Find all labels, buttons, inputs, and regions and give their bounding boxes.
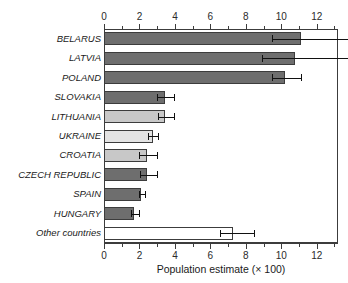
category-label: LITHUANIA — [1, 111, 101, 122]
axis-tick-label: 10 — [269, 250, 293, 261]
error-bar-line — [262, 58, 348, 59]
error-bar-cap-low — [220, 230, 221, 237]
bar — [104, 188, 141, 201]
x-axis-title: Population estimate (× 100) — [104, 263, 338, 275]
axis-tick — [210, 244, 211, 249]
axis-tick — [175, 244, 176, 249]
axis-tick — [175, 24, 176, 29]
bar-chart-figure: 024681012 024681012 BELARUSLATVIAPOLANDS… — [0, 0, 348, 283]
axis-tick — [246, 24, 247, 29]
category-label: CROATIA — [1, 149, 101, 160]
category-axis-labels: BELARUSLATVIAPOLANDSLOVAKIALITHUANIAUKRA… — [0, 0, 101, 283]
axis-tick — [299, 244, 300, 247]
axis-tick — [210, 24, 211, 29]
bar — [104, 32, 301, 45]
axis-tick — [139, 244, 140, 249]
error-bar-cap-high — [174, 113, 175, 120]
axis-tick-label: 8 — [234, 250, 258, 261]
axis-tick — [264, 244, 265, 247]
error-bar-line — [158, 117, 174, 118]
axis-tick-label: 10 — [269, 11, 293, 22]
error-bar-cap-high — [158, 133, 159, 140]
axis-tick — [228, 26, 229, 29]
bar — [104, 130, 153, 143]
error-bar-cap-low — [139, 191, 140, 198]
bar — [104, 71, 285, 84]
axis-tick — [281, 244, 282, 249]
axis-tick — [122, 26, 123, 29]
error-bar-cap-high — [301, 74, 302, 81]
axis-tick — [228, 244, 229, 247]
error-bar-cap-low — [140, 171, 141, 178]
bar — [104, 207, 134, 220]
error-bar-cap-high — [254, 230, 255, 237]
error-bar-cap-high — [157, 152, 158, 159]
axis-tick — [157, 26, 158, 29]
axis-tick-label: 6 — [198, 11, 222, 22]
axis-tick-label: 4 — [163, 250, 187, 261]
error-bar-line — [148, 136, 158, 137]
category-label: BELARUS — [1, 33, 101, 44]
axis-tick — [246, 244, 247, 249]
error-bar-line — [157, 97, 174, 98]
axis-tick — [139, 24, 140, 29]
category-label: SPAIN — [1, 188, 101, 199]
axis-tick — [334, 26, 335, 29]
error-bar-line — [272, 39, 348, 40]
error-bar-cap-low — [157, 94, 158, 101]
top-axis-line — [104, 29, 338, 30]
category-label: Other countries — [1, 227, 101, 238]
axis-tick-label: 12 — [305, 11, 329, 22]
category-label: POLAND — [1, 72, 101, 83]
error-bar-cap-low — [148, 133, 149, 140]
axis-tick — [317, 24, 318, 29]
axis-tick-label: 2 — [127, 11, 151, 22]
error-bar-cap-low — [272, 74, 273, 81]
axis-tick-label: 8 — [234, 11, 258, 22]
error-bar-cap-low — [158, 113, 159, 120]
axis-tick-label: 2 — [127, 250, 151, 261]
axis-tick-label: 12 — [305, 250, 329, 261]
axis-tick — [334, 244, 335, 247]
error-bar-line — [272, 78, 300, 79]
error-bar-line — [131, 214, 139, 215]
error-bar-line — [220, 233, 254, 234]
bar — [104, 227, 233, 240]
axis-tick — [122, 244, 123, 247]
axis-tick — [193, 26, 194, 29]
error-bar-cap-low — [139, 152, 140, 159]
axis-tick-label: 6 — [198, 250, 222, 261]
category-label: LATVIA — [1, 52, 101, 63]
category-label: SLOVAKIA — [1, 91, 101, 102]
error-bar-cap-high — [157, 171, 158, 178]
category-label: CZECH REPUBLIC — [1, 169, 101, 180]
axis-tick — [264, 26, 265, 29]
error-bar-cap-high — [145, 191, 146, 198]
axis-tick — [281, 24, 282, 29]
bar — [104, 91, 165, 104]
category-label: HUNGARY — [1, 208, 101, 219]
axis-tick-label: 4 — [163, 11, 187, 22]
axis-tick — [193, 244, 194, 247]
axis-tick — [317, 244, 318, 249]
category-label: UKRAINE — [1, 130, 101, 141]
error-bar-line — [140, 175, 157, 176]
error-bar-cap-high — [139, 210, 140, 217]
axis-tick — [157, 244, 158, 247]
axis-tick — [104, 24, 105, 29]
axis-tick — [299, 26, 300, 29]
bar — [104, 110, 165, 123]
error-bar-cap-low — [272, 35, 273, 42]
error-bar-cap-low — [131, 210, 132, 217]
axis-tick — [104, 244, 105, 249]
error-bar-cap-high — [174, 94, 175, 101]
error-bar-line — [139, 155, 157, 156]
error-bar-cap-low — [262, 55, 263, 62]
